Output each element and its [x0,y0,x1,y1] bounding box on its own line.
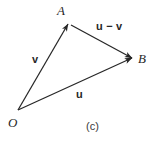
vector-label-v: v [32,54,38,65]
vector-v-arrow [18,24,68,110]
point-label-a: A [57,4,65,17]
point-label-b: B [138,52,146,65]
vector-diagram-figure: A B O v u u − v (c) [0,0,156,146]
point-label-o: O [8,116,17,129]
vector-label-u: u [76,89,83,100]
figure-caption: (c) [86,121,99,132]
vector-label-u-minus-v: u − v [96,21,122,32]
vector-u-arrow [18,58,132,110]
vector-diagram-canvas [0,0,156,146]
